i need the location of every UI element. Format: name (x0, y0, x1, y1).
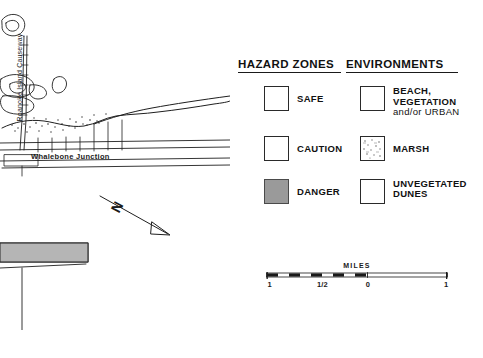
legend-item-safe: SAFE (238, 86, 346, 111)
legend-headers: HAZARD ZONES ENVIRONMENTS (238, 58, 483, 73)
legend-item-unvegetated-dunes: UNVEGETATED DUNES (346, 179, 478, 204)
legend-row: DANGER UNVEGETATED DUNES (238, 179, 483, 204)
scale-tick-labels: 1 1/2 0 1 (266, 280, 448, 292)
scale-zero-tick (367, 272, 368, 278)
scale-bar: MILES 1 1/2 0 1 (266, 262, 448, 292)
map-linework (0, 0, 230, 330)
island-inner-shape (6, 20, 19, 31)
scale-tick-label: 0 (366, 280, 370, 289)
swatch-safe (264, 86, 289, 111)
small-island-shape (52, 77, 66, 93)
scale-end-cap (446, 272, 447, 279)
road-line (0, 140, 230, 143)
legend-rows: SAFE BEACH, VEGETATION and/or URBAN CAUT… (238, 86, 483, 204)
legend-item-beach-vegetation-urban: BEACH, VEGETATION and/or URBAN (346, 86, 478, 118)
barrier-island-shoreline (94, 96, 230, 124)
causeway-line (24, 36, 27, 150)
scale-segment (289, 273, 300, 276)
swatch-danger (264, 179, 289, 204)
legend-label-danger: DANGER (297, 179, 340, 198)
swatch-caution (264, 136, 289, 161)
scale-segment (311, 273, 322, 276)
swatch-beach-vegetation-urban (360, 86, 385, 111)
road-line (2, 165, 230, 168)
legend-header-environments: ENVIRONMENTS (346, 58, 458, 73)
legend-header-hazard-zones: HAZARD ZONES (238, 58, 341, 73)
scale-segment (333, 273, 344, 276)
map-label-causeway: Roanoke Island Causeway (16, 34, 23, 122)
legend-label-marsh: MARSH (393, 136, 429, 155)
legend-label-unvegetated-dunes: UNVEGETATED DUNES (393, 179, 467, 200)
legend-label-safe: SAFE (297, 86, 324, 105)
legend-item-danger: DANGER (238, 179, 346, 204)
legend-label-beach-vegetation-urban: BEACH, VEGETATION and/or URBAN (393, 86, 459, 118)
legend-item-marsh: MARSH (346, 136, 478, 161)
shoreline-path (2, 101, 230, 128)
scale-tick-label: 1 (267, 280, 271, 289)
map-panel: Roanoke Island Causeway Whalebone Juncti… (0, 0, 230, 330)
scale-tick-label: 1/2 (317, 280, 328, 289)
legend-label-line: BEACH, (393, 86, 459, 97)
road-line (0, 147, 230, 150)
scale-bar-title: MILES (266, 262, 448, 269)
lower-shore-line (0, 264, 86, 268)
legend-item-caution: CAUTION (238, 136, 346, 161)
legend-row: SAFE BEACH, VEGETATION and/or URBAN (238, 86, 483, 118)
map-label-whalebone-junction: Whalebone Junction (31, 152, 110, 161)
scale-segment (355, 273, 366, 276)
scale-end-cap (267, 272, 268, 279)
scale-tick-label: 1 (444, 280, 448, 289)
scale-segment (267, 273, 278, 276)
scale-bar-graphic (266, 272, 448, 279)
danger-band-fill (0, 243, 88, 262)
marsh-pattern-icon (361, 137, 384, 160)
north-arrow-head (151, 222, 170, 235)
swatch-marsh (360, 136, 385, 161)
legend-panel: HAZARD ZONES ENVIRONMENTS SAFE BEACH, VE… (238, 58, 483, 222)
legend-label-caution: CAUTION (297, 136, 342, 155)
zone-boundary-ticks (38, 120, 122, 152)
legend-label-line: and/or URBAN (393, 107, 459, 118)
legend-label-line: DUNES (393, 189, 467, 200)
legend-row: CAUTION (238, 136, 483, 161)
swatch-unvegetated-dunes (360, 179, 385, 204)
